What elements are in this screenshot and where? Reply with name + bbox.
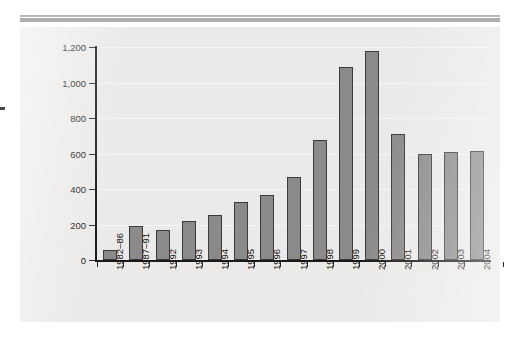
- x-axis-tick-label: 1999: [350, 249, 361, 270]
- gridline: [96, 118, 490, 119]
- x-axis-tick-label: 1994: [219, 249, 230, 270]
- bar: [470, 151, 484, 260]
- x-axis-tick-label: 1998: [324, 249, 335, 270]
- x-axis-tick-label: 2001: [402, 249, 413, 270]
- top-rule-line-mid: [20, 18, 500, 22]
- x-axis-tick: [97, 262, 98, 267]
- bar: [339, 67, 353, 260]
- x-axis-tick-label: 1982–86: [114, 233, 125, 270]
- y-axis-tick-label: 200: [70, 219, 86, 230]
- y-axis-tick-label: 1,000: [62, 77, 86, 88]
- top-rule-line-dark: [20, 15, 500, 17]
- bar: [391, 134, 405, 260]
- x-axis-tick-label: 1992: [167, 249, 178, 270]
- bar: [313, 140, 327, 260]
- y-axis-line: [95, 46, 97, 261]
- bar: [365, 51, 379, 260]
- x-axis-tick-label: 2003: [455, 249, 466, 270]
- x-axis-tick-label: 1995: [245, 249, 256, 270]
- gridline: [96, 83, 490, 84]
- bar: [287, 177, 301, 260]
- x-axis-tick-label: 1987–91: [140, 233, 151, 270]
- top-rule: [20, 15, 500, 24]
- x-axis-tick-label: 2002: [429, 249, 440, 270]
- y-axis-tick-labels: 02004006008001,0001,200: [20, 27, 86, 322]
- bar-chart-plot: 02004006008001,0001,200 1982–861987–9119…: [20, 27, 500, 322]
- y-axis-tick-label: 600: [70, 148, 86, 159]
- y-axis-tick-label: 400: [70, 184, 86, 195]
- x-axis-tick-label: 2004: [481, 249, 492, 270]
- bar: [418, 154, 432, 260]
- y-axis-tick-label: 0: [81, 255, 86, 266]
- y-axis-tick-label: 1,200: [62, 42, 86, 53]
- x-axis-tick-label: 1997: [298, 249, 309, 270]
- left-edge-scan-mark: [0, 107, 5, 110]
- gridline: [96, 47, 490, 48]
- x-axis-tick: [503, 262, 504, 267]
- x-axis-tick-label: 2000: [376, 249, 387, 270]
- y-axis-tick-label: 800: [70, 113, 86, 124]
- bar: [444, 152, 458, 260]
- x-axis-tick-label: 1993: [193, 249, 204, 270]
- chart-panel: 02004006008001,0001,200 1982–861987–9119…: [20, 27, 500, 322]
- x-axis-tick-label: 1996: [271, 249, 282, 270]
